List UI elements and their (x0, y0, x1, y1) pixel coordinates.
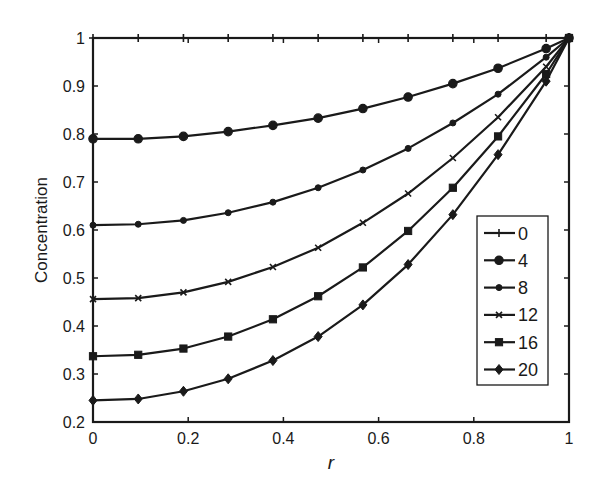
plus-marker (542, 34, 550, 42)
line-chart: 0.20.30.40.50.60.70.80.91 00.20.40.60.81… (0, 0, 598, 489)
diamond-marker (134, 394, 142, 404)
square-marker (135, 351, 142, 358)
series-line (93, 38, 569, 139)
y-tick-label: 0.7 (63, 174, 85, 191)
dot-marker (135, 221, 141, 227)
square-marker (225, 333, 232, 340)
x-axis-label: r (328, 452, 335, 473)
x-tick-label: 1 (565, 430, 574, 447)
circle-marker (404, 93, 412, 101)
legend-label: 0 (518, 224, 528, 244)
square-marker (494, 133, 501, 140)
plus-marker (224, 34, 232, 42)
diamond-marker (269, 356, 277, 366)
plus-marker (179, 34, 187, 42)
dot-marker (90, 222, 96, 228)
square-marker (495, 339, 502, 346)
legend-label: 16 (518, 333, 538, 353)
x-tick-label: 0 (89, 430, 98, 447)
legend: 048121620 (477, 216, 548, 385)
x-tick-label: 0.2 (177, 430, 199, 447)
chart: 0.20.30.40.50.60.70.80.91 00.20.40.60.81… (0, 0, 598, 489)
plus-marker (89, 34, 97, 42)
circle-marker (542, 44, 550, 52)
y-tick-label: 0.3 (63, 366, 85, 383)
diamond-marker (224, 374, 232, 384)
y-tick-label: 0.8 (63, 126, 85, 143)
square-marker (89, 353, 96, 360)
square-marker (359, 264, 366, 271)
series-0 (89, 34, 573, 42)
circle-marker (449, 79, 457, 87)
dot-marker (450, 120, 456, 126)
y-tick-label: 0.5 (63, 270, 85, 287)
circle-marker (495, 256, 503, 264)
legend-label: 4 (518, 251, 528, 271)
x-tick-label: 0.8 (463, 430, 485, 447)
plus-marker (449, 34, 457, 42)
dot-marker (543, 54, 549, 60)
dot-marker (405, 145, 411, 151)
square-marker (180, 345, 187, 352)
y-tick-label: 1 (76, 30, 85, 47)
x-tick-label: 0.4 (272, 430, 294, 447)
square-marker (449, 184, 456, 191)
dot-marker (496, 285, 502, 291)
diamond-marker (179, 386, 187, 396)
circle-marker (89, 135, 97, 143)
dot-marker (180, 217, 186, 223)
circle-marker (359, 104, 367, 112)
diamond-marker (314, 332, 322, 342)
plus-marker (134, 34, 142, 42)
circle-marker (179, 132, 187, 140)
square-marker (405, 227, 412, 234)
dot-marker (225, 210, 231, 216)
y-tick-label: 0.6 (63, 222, 85, 239)
legend-label: 12 (518, 305, 538, 325)
square-marker (269, 316, 276, 323)
dot-marker (315, 185, 321, 191)
x-tick-label: 0.6 (367, 430, 389, 447)
dot-marker (495, 91, 501, 97)
series-4 (89, 34, 573, 143)
plus-marker (494, 34, 502, 42)
circle-marker (134, 135, 142, 143)
y-tick-label: 0.2 (63, 414, 85, 431)
y-tick-label: 0.4 (63, 318, 85, 335)
x-marker (450, 155, 456, 161)
x-marker (495, 114, 501, 120)
dot-marker (360, 167, 366, 173)
y-tick-label: 0.9 (63, 78, 85, 95)
square-marker (315, 293, 322, 300)
circle-marker (314, 114, 322, 122)
circle-marker (224, 127, 232, 135)
legend-label: 20 (518, 360, 538, 380)
plus-marker (404, 34, 412, 42)
plus-marker (269, 34, 277, 42)
circle-marker (494, 64, 502, 72)
plus-marker (314, 34, 322, 42)
x-marker (405, 191, 411, 197)
y-axis-label: Concentration (32, 177, 51, 283)
dot-marker (270, 199, 276, 205)
legend-label: 8 (518, 278, 528, 298)
circle-marker (269, 121, 277, 129)
diamond-marker (89, 395, 97, 405)
plus-marker (359, 34, 367, 42)
